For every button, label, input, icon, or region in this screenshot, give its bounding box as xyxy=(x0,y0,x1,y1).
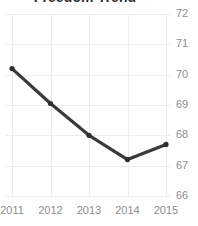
x-axis-tick-label: 2014 xyxy=(108,205,148,216)
chart-container: Freedom Trend 72717069686766 20112012201… xyxy=(0,0,198,226)
plot-area xyxy=(0,0,170,198)
data-point-marker xyxy=(9,66,14,71)
data-point-marker xyxy=(86,133,91,138)
y-axis-tick-label: 69 xyxy=(176,99,198,110)
x-axis-tick-label: 2015 xyxy=(146,205,186,216)
y-axis-tick-label: 71 xyxy=(176,38,198,49)
line-series xyxy=(0,0,170,198)
y-axis-tick-label: 66 xyxy=(176,190,198,201)
data-point-marker xyxy=(48,101,53,106)
x-axis-tick-label: 2013 xyxy=(69,205,109,216)
data-point-marker xyxy=(125,157,130,162)
x-axis-tick-label: 2012 xyxy=(31,205,71,216)
series-polyline xyxy=(12,69,166,160)
data-point-marker xyxy=(163,142,168,147)
y-axis-tick-label: 68 xyxy=(176,129,198,140)
x-axis-tick-label: 2011 xyxy=(0,205,32,216)
y-axis-tick-label: 70 xyxy=(176,69,198,80)
series-markers xyxy=(9,66,168,162)
y-axis-tick-label: 67 xyxy=(176,160,198,171)
y-axis-tick-label: 72 xyxy=(176,8,198,19)
